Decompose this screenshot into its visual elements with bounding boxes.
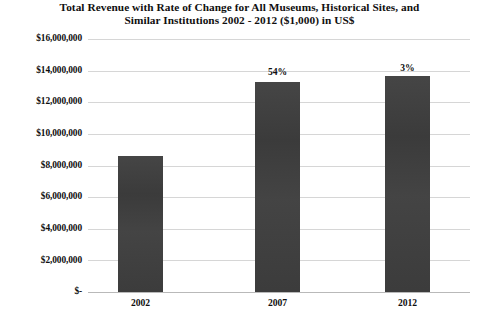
data-label-2007: 54% [255, 66, 300, 77]
chart-title-line-1: Total Revenue with Rate of Change for Al… [60, 1, 420, 13]
x-tick-label-2007: 2007 [255, 297, 300, 308]
y-axis-labels: $16,000,000 $14,000,000 $12,000,000 $10,… [0, 0, 82, 317]
x-tick-label-2012: 2012 [385, 297, 430, 308]
y-tick-label-8000000: $8,000,000 [0, 160, 82, 170]
bar-2012[interactable] [385, 76, 430, 292]
y-tick-label-14000000: $14,000,000 [0, 65, 82, 75]
bar-2002[interactable] [118, 156, 163, 292]
x-tick-label-2002: 2002 [118, 297, 163, 308]
gridline-16000000 [88, 39, 470, 40]
y-tick-label-12000000: $12,000,000 [0, 96, 82, 106]
chart-container: Total Revenue with Rate of Change for Al… [0, 0, 479, 317]
y-tick-label-4000000: $4,000,000 [0, 223, 82, 233]
y-tick-label-2000000: $2,000,000 [0, 255, 82, 265]
y-tick-label-10000000: $10,000,000 [0, 128, 82, 138]
y-tick-label-0: $- [0, 286, 82, 296]
y-tick-label-6000000: $6,000,000 [0, 191, 82, 201]
y-tick-label-16000000: $16,000,000 [0, 33, 82, 43]
data-label-2012: 3% [385, 62, 430, 73]
gridline-baseline [88, 292, 470, 293]
bar-2007[interactable] [255, 82, 300, 292]
